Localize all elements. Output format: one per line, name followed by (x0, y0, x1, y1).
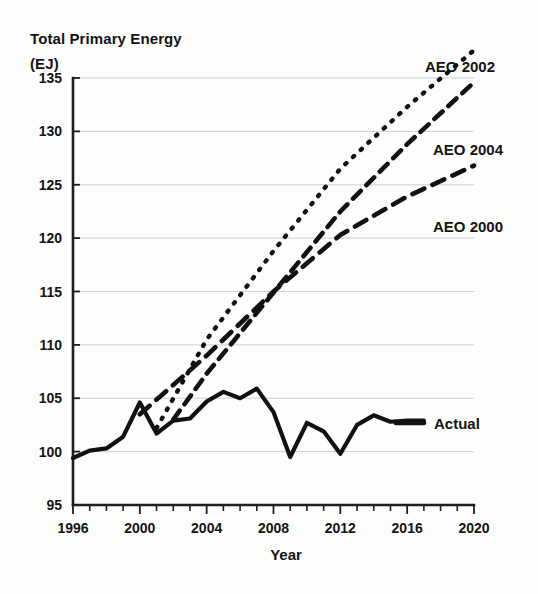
x-axis-title: Year (0, 546, 538, 563)
y-tick-label: 105 (39, 390, 63, 406)
y-tick-label: 110 (39, 337, 62, 353)
x-axis-title-text: Year (270, 546, 302, 563)
x-tick-label: 2000 (124, 520, 155, 536)
y-tick-label: 95 (46, 497, 62, 513)
y-tick-label: 130 (39, 123, 63, 139)
x-tick-label: 1996 (57, 520, 88, 536)
series-line-actual (73, 389, 424, 458)
plot-area: 95100105110115120125130135 1996200020042… (0, 0, 538, 594)
y-tick-label: 125 (39, 177, 63, 193)
x-tick-label: 2020 (458, 520, 489, 536)
series-label-actual: Actual (434, 415, 480, 432)
x-tick-label: 2016 (392, 520, 423, 536)
chart-container: Total Primary Energy (EJ) 95100105110115… (0, 0, 538, 594)
x-tick-label: 2012 (325, 520, 356, 536)
y-tick-label: 120 (39, 230, 63, 246)
x-tick-label: 2004 (191, 520, 222, 536)
series-label-aeo-2002: AEO 2002 (425, 58, 495, 75)
series-label-aeo-2004: AEO 2004 (433, 141, 504, 158)
x-axis-ticks: 1996200020042008201220162020 (57, 505, 489, 536)
series-line-aeo-2000 (140, 166, 474, 415)
y-tick-label: 115 (39, 284, 62, 300)
gridlines (73, 78, 474, 452)
x-tick-label: 2008 (258, 520, 289, 536)
y-tick-label: 100 (39, 444, 63, 460)
series-label-aeo-2000: AEO 2000 (433, 218, 503, 235)
y-tick-label: 135 (39, 70, 63, 86)
